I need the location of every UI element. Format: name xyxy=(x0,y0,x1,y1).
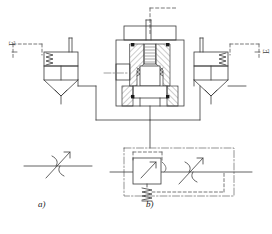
right-pilot-dashed-line xyxy=(230,44,259,58)
center-sectional-assembly xyxy=(96,8,200,148)
center-spool xyxy=(140,66,160,86)
bottom-left-variable-throttle-symbol xyxy=(24,152,92,178)
fcv-pilot-curl xyxy=(162,162,166,172)
caption-b: b) xyxy=(146,199,154,209)
center-stem xyxy=(146,20,151,40)
right-pressure-compensator-symbol xyxy=(194,38,260,104)
figure-canvas: a) b) E E xyxy=(0,0,272,234)
right-spring-icon xyxy=(219,53,226,65)
center-sleeve-thread xyxy=(145,47,155,62)
center-lower-chamber xyxy=(133,86,167,98)
left-spring-icon xyxy=(46,53,53,65)
left-label-E: E xyxy=(8,41,17,46)
center-left-port-block xyxy=(116,64,130,80)
fcv-throttle-adjust-arrow xyxy=(179,158,203,184)
center-pilot-dashed-line xyxy=(150,8,178,34)
left-pilot-dashed-line xyxy=(13,44,42,58)
fcv-pilot-dashed-return xyxy=(152,172,224,192)
caption-a: a) xyxy=(38,199,46,209)
right-label-E: E xyxy=(262,49,271,54)
throttle-adjust-arrow-left xyxy=(46,152,70,178)
left-stem xyxy=(69,38,72,52)
right-arrow-head xyxy=(194,80,228,104)
left-pressure-compensator-symbol xyxy=(12,38,96,104)
fcv-compensator-box xyxy=(133,158,161,184)
left-arrow-head xyxy=(44,80,78,104)
right-stem xyxy=(200,38,203,52)
bottom-center-flow-control-valve-symbol xyxy=(110,148,252,201)
